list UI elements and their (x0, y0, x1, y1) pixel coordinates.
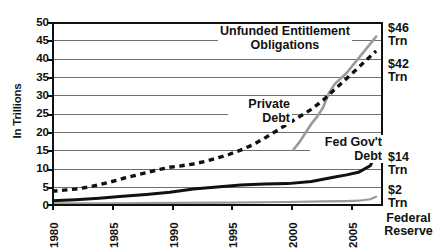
series-private-debt (52, 51, 376, 191)
y-tick-label-0: 0 (23, 199, 49, 211)
right-label-federal-reserve-line2: Reserve (382, 225, 435, 238)
y-tick-label-15: 15 (23, 144, 49, 156)
annotation-unfunded-line1: Unfunded Entitlement (220, 24, 350, 38)
x-tick-label-1980: 1980 (48, 222, 60, 248)
right-label-42trn-unit: Trn (388, 71, 409, 84)
x-tick-mark-1980 (52, 205, 54, 210)
y-axis-title: In Trillions (11, 61, 23, 161)
y-tick-label-30: 30 (23, 89, 49, 101)
plot-axis-right (381, 22, 383, 206)
x-tick-label-1990: 1990 (168, 222, 180, 248)
right-label-14trn: $14 Trn (388, 151, 409, 177)
annotation-fedgov-line1: Fed Gov't (312, 135, 382, 149)
chart-root: In Trillions 50 45 40 35 30 25 20 15 10 … (0, 0, 435, 252)
annotation-private-line1: Private (230, 97, 290, 111)
right-label-42trn: $42 Trn (388, 58, 409, 84)
annotation-fedgov-line2: Debt (312, 149, 382, 163)
right-label-federal-reserve: Federal Reserve (382, 212, 435, 238)
annotation-private-debt: Private Debt (228, 97, 292, 125)
right-label-46trn-unit: Trn (388, 35, 409, 48)
x-tick-label-2005: 2005 (347, 222, 359, 248)
x-tick-mark-1990 (172, 205, 174, 210)
x-tick-label-1985: 1985 (108, 222, 120, 248)
annotation-private-line2: Debt (230, 111, 290, 125)
y-tick-label-35: 35 (23, 71, 49, 83)
y-tick-label-40: 40 (23, 52, 49, 64)
plot-axis-bottom (52, 204, 383, 206)
y-tick-label-5: 5 (23, 181, 49, 193)
x-tick-mark-1995 (231, 205, 233, 210)
right-label-2trn: $2 Trn (388, 184, 407, 210)
y-tick-label-25: 25 (23, 107, 49, 119)
y-tick-label-50: 50 (23, 16, 49, 28)
x-tick-label-1995: 1995 (227, 222, 239, 248)
x-tick-mark-1985 (112, 205, 114, 210)
y-tick-label-10: 10 (23, 162, 49, 174)
x-tick-mark-2005 (351, 205, 353, 210)
y-tick-label-45: 45 (23, 34, 49, 46)
right-label-46trn: $46 Trn (388, 22, 409, 48)
series-unfunded-entitlement (294, 37, 377, 150)
x-tick-mark-2000 (291, 205, 293, 210)
right-label-2trn-unit: Trn (388, 197, 407, 210)
x-tick-label-2000: 2000 (287, 222, 299, 248)
y-tick-label-20: 20 (23, 126, 49, 138)
annotation-fed-gov-debt: Fed Gov't Debt (310, 135, 384, 163)
right-label-14trn-unit: Trn (388, 164, 409, 177)
plot-axis-left (52, 22, 54, 205)
annotation-unfunded-line2: Obligations (220, 38, 350, 52)
annotation-unfunded-entitlement: Unfunded Entitlement Obligations (218, 24, 352, 52)
